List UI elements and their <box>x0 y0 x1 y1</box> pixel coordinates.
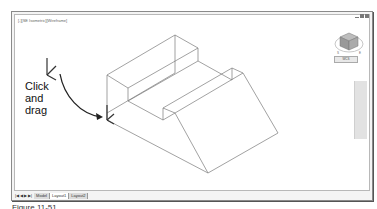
figure-caption: Figure 11-51 <box>12 203 57 209</box>
model-ucs-icon[interactable] <box>107 105 114 124</box>
drag-arrow-icon <box>60 74 103 120</box>
ucs-icon[interactable] <box>47 58 56 80</box>
svg-text:E: E <box>359 51 361 55</box>
callout-line-2: and <box>25 92 49 104</box>
callout-line-1: Click <box>25 80 49 92</box>
viewcube-icon[interactable]: S E <box>335 33 363 55</box>
callout-line-3: drag <box>25 104 49 116</box>
wireframe-model[interactable] <box>107 35 278 173</box>
drawing-canvas: S E <box>0 0 377 209</box>
svg-text:S: S <box>337 51 339 55</box>
click-and-drag-callout: Click and drag <box>25 80 49 116</box>
